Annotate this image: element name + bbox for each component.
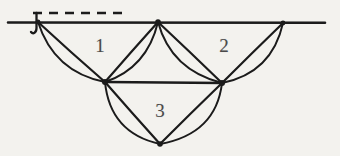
node-right-bottom	[219, 80, 225, 86]
node-left-baseline-anchor	[36, 20, 41, 25]
figure-container: 1 2 3	[0, 0, 340, 156]
region-label-3: 3	[155, 101, 165, 120]
diagram-canvas	[0, 0, 340, 156]
region-label-2: 2	[219, 36, 229, 55]
region-label-1: 1	[95, 36, 105, 55]
node-left-bottom	[102, 79, 108, 85]
edge-B-E-straight	[158, 22, 222, 83]
edge-C-E-straight	[222, 23, 283, 83]
node-bottom-apex	[157, 141, 163, 147]
edge-B-D-straight	[105, 22, 158, 82]
node-top-right	[281, 21, 286, 26]
edge-D-E-straight	[105, 82, 222, 83]
node-top-middle	[155, 19, 161, 25]
